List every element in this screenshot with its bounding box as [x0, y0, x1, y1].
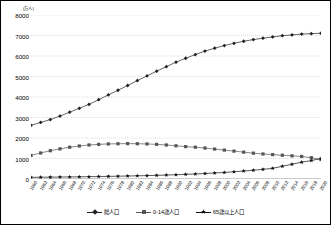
x-axis-tick: 2008 — [261, 180, 270, 191]
data-point-marker — [213, 171, 217, 175]
data-point-marker — [116, 88, 120, 92]
data-point-marker — [39, 175, 43, 179]
data-point-marker — [222, 170, 226, 174]
legend-label: 0-14歳人口 — [153, 208, 179, 216]
data-point-marker — [68, 146, 71, 149]
x-axis-tick: 1990 — [174, 180, 183, 191]
data-point-marker — [68, 110, 72, 114]
data-point-marker — [222, 44, 226, 48]
data-point-marker — [145, 142, 148, 145]
legend-label: 総人口 — [104, 208, 119, 216]
data-point-marker — [68, 175, 72, 179]
data-point-marker — [87, 143, 90, 146]
data-point-marker — [31, 154, 33, 157]
x-axis-tick: 1968 — [68, 180, 77, 191]
square-marker-icon — [136, 209, 151, 215]
data-point-marker — [107, 142, 110, 145]
data-point-marker — [58, 147, 61, 150]
x-axis-tick: 2006 — [251, 180, 260, 191]
y-axis-tick-labels: 010002000300040005000600070008000 — [1, 15, 29, 179]
data-point-marker — [78, 144, 81, 147]
legend-label: 65歳以上人口 — [213, 208, 244, 216]
data-point-marker — [174, 60, 178, 64]
data-point-marker — [242, 169, 246, 173]
x-axis-tick: 2018 — [309, 180, 318, 191]
series-3 — [31, 156, 321, 179]
data-point-marker — [97, 143, 100, 146]
data-point-marker — [106, 174, 110, 178]
x-axis-tick: 2020 — [319, 180, 328, 191]
data-point-marker — [280, 34, 284, 38]
data-point-marker — [319, 31, 321, 35]
x-axis-tick: 1978 — [116, 180, 125, 191]
x-axis-tick: 1964 — [48, 180, 57, 191]
data-point-marker — [223, 148, 226, 151]
y-axis-tick: 6000 — [15, 53, 29, 60]
data-point-marker — [97, 174, 101, 178]
data-point-marker — [155, 69, 159, 73]
data-point-marker — [126, 84, 130, 88]
data-point-marker — [77, 106, 81, 110]
legend-item-2[interactable]: 0-14歳人口 — [136, 208, 179, 216]
data-point-marker — [164, 173, 168, 177]
data-point-marker — [251, 168, 255, 172]
x-axis-tick: 2010 — [271, 180, 280, 191]
data-point-marker — [126, 142, 129, 145]
y-axis-tick: 0 — [26, 176, 29, 183]
x-axis-tick: 1970 — [77, 180, 86, 191]
data-point-marker — [203, 146, 206, 149]
data-point-marker — [232, 41, 236, 45]
data-point-marker — [194, 146, 197, 149]
data-point-marker — [213, 147, 216, 150]
data-point-marker — [174, 173, 178, 177]
data-point-marker — [164, 65, 168, 69]
data-point-marker — [136, 142, 139, 145]
data-point-marker — [261, 152, 264, 155]
data-point-marker — [77, 175, 81, 179]
data-point-marker — [261, 36, 265, 40]
x-axis-tick: 1994 — [193, 180, 202, 191]
data-point-marker — [97, 98, 101, 102]
x-axis-tick: 1976 — [106, 180, 115, 191]
data-point-marker — [145, 74, 149, 78]
x-axis-tick: 2004 — [242, 180, 251, 191]
data-point-marker — [48, 175, 52, 179]
data-point-marker — [309, 32, 313, 36]
x-axis-tick: 1984 — [145, 180, 154, 191]
x-axis-tick: 1996 — [203, 180, 212, 191]
data-point-marker — [242, 39, 246, 43]
data-point-marker — [116, 142, 119, 145]
series-canvas — [31, 15, 321, 179]
x-axis-tick: 2012 — [280, 180, 289, 191]
plot-area — [31, 15, 321, 179]
data-point-marker — [135, 79, 139, 83]
data-point-marker — [106, 93, 110, 97]
y-axis-tick: 8000 — [15, 12, 29, 19]
series-line — [31, 33, 321, 125]
data-point-marker — [271, 153, 274, 156]
data-point-marker — [203, 171, 207, 175]
y-axis-tick: 4000 — [15, 94, 29, 101]
data-point-marker — [193, 53, 197, 57]
x-axis-tick: 1992 — [184, 180, 193, 191]
diamond-marker-icon — [87, 209, 102, 215]
x-axis-tick: 1980 — [126, 180, 135, 191]
legend-item-3[interactable]: 65歳以上人口 — [196, 208, 244, 216]
data-point-marker — [203, 49, 207, 53]
y-axis-tick: 3000 — [15, 114, 29, 121]
legend-item-1[interactable]: 総人口 — [87, 208, 119, 216]
data-point-marker — [126, 174, 130, 178]
data-point-marker — [252, 152, 255, 155]
data-point-marker — [155, 143, 158, 146]
data-point-marker — [184, 145, 187, 148]
data-point-marker — [31, 123, 33, 127]
data-point-marker — [290, 154, 293, 157]
x-axis-tick: 1960 — [29, 180, 38, 191]
data-point-marker — [300, 155, 303, 158]
data-point-marker — [49, 149, 52, 152]
data-point-marker — [232, 170, 236, 174]
x-axis-tick: 1988 — [164, 180, 173, 191]
x-axis-tick-labels: 1960196219641966196819701972197419761978… — [31, 180, 321, 206]
data-point-marker — [300, 160, 304, 164]
x-axis-tick: 2000 — [222, 180, 231, 191]
